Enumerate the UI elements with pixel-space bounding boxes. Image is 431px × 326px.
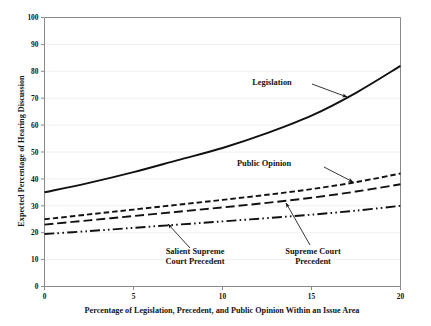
y-tick-label: 40 [31,175,39,184]
y-tick-label: 50 [31,148,39,157]
y-tick-label: 90 [31,40,39,49]
y-tick-label: 20 [31,228,39,237]
annotation-label-salient-supreme-court-precedent: Salient SupremeCourt Precedent [165,247,224,266]
chart-background [0,0,431,326]
x-tick-label: 5 [132,292,136,301]
x-tick-label: 20 [397,292,405,301]
chart-figure: 0102030405060708090100 05101520 Legislat… [0,0,431,326]
x-tick-label: 10 [219,292,227,301]
y-tick-label: 80 [31,67,39,76]
line-chart: 0102030405060708090100 05101520 Legislat… [0,0,431,326]
x-tick-label: 0 [43,292,47,301]
y-axis-title: Expected Percentage of Hearing Discussio… [17,75,26,227]
y-tick-label: 70 [31,94,39,103]
x-axis-title: Percentage of Legislation, Precedent, an… [85,306,360,315]
y-tick-label: 0 [35,282,39,291]
annotation-label-legislation: Legislation [252,78,292,87]
y-tick-label: 60 [31,121,39,130]
annotation-label-public-opinion: Public Opinion [237,159,292,168]
y-tick-label: 30 [31,202,39,211]
y-tick-label: 10 [31,255,39,264]
x-tick-label: 15 [308,292,316,301]
y-tick-label: 100 [27,13,38,22]
